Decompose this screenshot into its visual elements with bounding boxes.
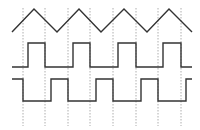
triangle-wave (12, 9, 192, 32)
square-wave-1 (12, 43, 192, 67)
square-wave-2 (12, 79, 192, 101)
timing-diagram (0, 0, 200, 130)
